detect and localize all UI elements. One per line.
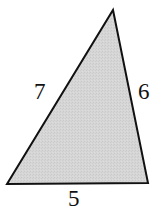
side-label-right: 6 <box>138 80 150 103</box>
triangle-figure: 7 6 5 <box>0 0 157 211</box>
side-label-left: 7 <box>34 80 46 103</box>
triangle-svg <box>0 0 157 211</box>
triangle-shape <box>7 10 148 184</box>
side-label-bottom: 5 <box>68 187 80 210</box>
